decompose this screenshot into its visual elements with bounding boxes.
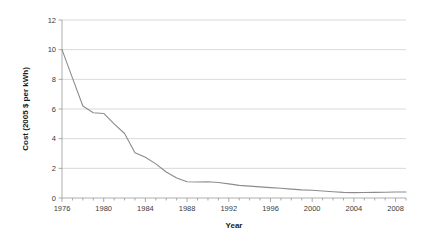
x-axis-title: Year bbox=[226, 221, 243, 230]
x-tick-label: 1980 bbox=[95, 204, 112, 213]
x-tick-label: 2000 bbox=[304, 204, 321, 213]
x-tick-label: 2004 bbox=[346, 204, 363, 213]
y-tick-label: 6 bbox=[52, 105, 56, 114]
y-tick-label: 12 bbox=[48, 16, 56, 25]
y-axis-title: Cost (2005 $ per kWh) bbox=[21, 67, 30, 151]
x-tick-label: 1988 bbox=[179, 204, 196, 213]
y-tick-label: 2 bbox=[52, 164, 56, 173]
x-tick-label: 1976 bbox=[54, 204, 71, 213]
y-tick-label: 4 bbox=[52, 134, 56, 143]
line-chart: 024681012 197619801984198819921996200020… bbox=[0, 0, 428, 245]
x-axis-tick-labels: 197619801984198819921996200020042008 bbox=[54, 204, 404, 213]
x-tick-label: 1992 bbox=[220, 204, 237, 213]
chart-canvas: 024681012 197619801984198819921996200020… bbox=[0, 0, 428, 245]
x-tick-label: 2008 bbox=[387, 204, 404, 213]
x-tick-label: 1996 bbox=[262, 204, 279, 213]
x-tick-label: 1984 bbox=[137, 204, 154, 213]
y-tick-label: 10 bbox=[48, 45, 56, 54]
y-tick-label: 0 bbox=[52, 194, 56, 203]
y-tick-label: 8 bbox=[52, 75, 56, 84]
